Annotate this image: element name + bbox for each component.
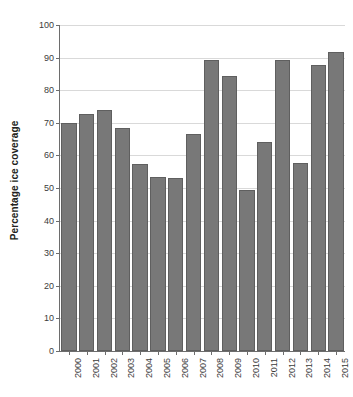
y-axis-title: Percentage ice coverage [2,0,28,360]
cut-off-header-sliver [0,0,353,5]
plot-area: 0102030405060708090100 [60,25,345,351]
bar-2010 [239,190,254,351]
bar-2009 [222,76,237,351]
bar-2007 [186,134,201,351]
y-tick-label-20: 20 [44,281,54,291]
x-tick-mark-2008 [211,351,212,355]
bar-2011 [257,142,272,351]
y-tick-label-40: 40 [44,216,54,226]
y-tick-label-50: 50 [44,183,54,193]
x-tick-mark-2005 [158,351,159,355]
x-tick-mark-2000 [69,351,70,355]
bar-2006 [168,178,183,351]
bar-2012 [275,60,290,351]
x-tick-label-2001: 2001 [91,358,101,378]
y-tick-label-60: 60 [44,150,54,160]
percentage-ice-coverage-bar-chart: Percentage ice coverage 0102030405060708… [0,0,353,397]
bar-2000 [61,123,76,351]
x-tick-label-2012: 2012 [287,358,297,378]
bar-2015 [328,52,343,351]
x-tick-label-2014: 2014 [322,358,332,378]
x-tick-label-2004: 2004 [144,358,154,378]
x-tick-mark-2012 [283,351,284,355]
x-tick-mark-2011 [265,351,266,355]
x-tick-label-2008: 2008 [215,358,225,378]
y-tick-label-10: 10 [44,313,54,323]
y-tick-label-30: 30 [44,248,54,258]
bar-2008 [204,60,219,351]
x-tick-label-2002: 2002 [109,358,119,378]
x-tick-label-2000: 2000 [73,358,83,378]
x-tick-mark-2004 [140,351,141,355]
x-tick-label-2006: 2006 [180,358,190,378]
y-tick-label-0: 0 [49,346,54,356]
x-tick-mark-2013 [300,351,301,355]
x-tick-label-2013: 2013 [304,358,314,378]
bar-2002 [97,110,112,351]
y-tick-label-80: 80 [44,85,54,95]
x-tick-mark-2010 [247,351,248,355]
x-tick-label-2010: 2010 [251,358,261,378]
bar-2001 [79,114,94,351]
x-tick-mark-2014 [318,351,319,355]
y-tick-label-70: 70 [44,118,54,128]
x-tick-label-2011: 2011 [269,358,279,377]
x-tick-mark-2007 [194,351,195,355]
x-tick-label-2009: 2009 [233,358,243,378]
x-tick-mark-2001 [87,351,88,355]
bar-2004 [132,164,147,351]
x-axis: 2000200120022003200420052006200720082009… [60,351,345,397]
bars [60,25,345,351]
x-tick-mark-2002 [105,351,106,355]
y-axis-title-label: Percentage ice coverage [10,120,21,240]
x-tick-label-2003: 2003 [126,358,136,378]
x-tick-label-2005: 2005 [162,358,172,378]
y-tick-label-90: 90 [44,53,54,63]
x-tick-mark-2003 [122,351,123,355]
x-tick-label-2007: 2007 [198,358,208,378]
x-tick-label-2015: 2015 [340,358,350,378]
x-tick-mark-2009 [229,351,230,355]
bar-2014 [311,65,326,351]
x-tick-mark-2006 [176,351,177,355]
bar-2005 [150,177,165,351]
y-tick-label-100: 100 [39,20,54,30]
x-tick-mark-2015 [336,351,337,355]
bar-2013 [293,163,308,351]
bar-2003 [115,128,130,351]
